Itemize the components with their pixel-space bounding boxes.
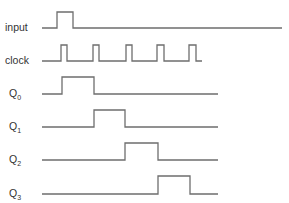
timing-diagram: input clock Q0 Q1 Q2 Q3	[0, 0, 289, 203]
waveform-q1	[42, 110, 218, 127]
waveform-q3	[42, 176, 218, 194]
signal-q0: Q0	[9, 77, 218, 101]
waveform-clock	[42, 45, 202, 61]
signal-q1: Q1	[9, 110, 218, 134]
waveform-input	[42, 12, 282, 28]
signal-input: input	[5, 12, 282, 33]
signal-label-q3: Q3	[9, 187, 21, 201]
waveform-q2	[42, 143, 218, 160]
signal-q3: Q3	[9, 176, 218, 201]
signal-label-q2: Q2	[9, 153, 21, 167]
signal-label-q0: Q0	[9, 87, 21, 101]
signal-label-q1: Q1	[9, 120, 21, 134]
signal-clock: clock	[5, 45, 202, 66]
signal-label-clock: clock	[5, 54, 30, 66]
waveform-q0	[42, 77, 218, 94]
signal-label-input: input	[5, 21, 28, 33]
signal-q2: Q2	[9, 143, 218, 167]
